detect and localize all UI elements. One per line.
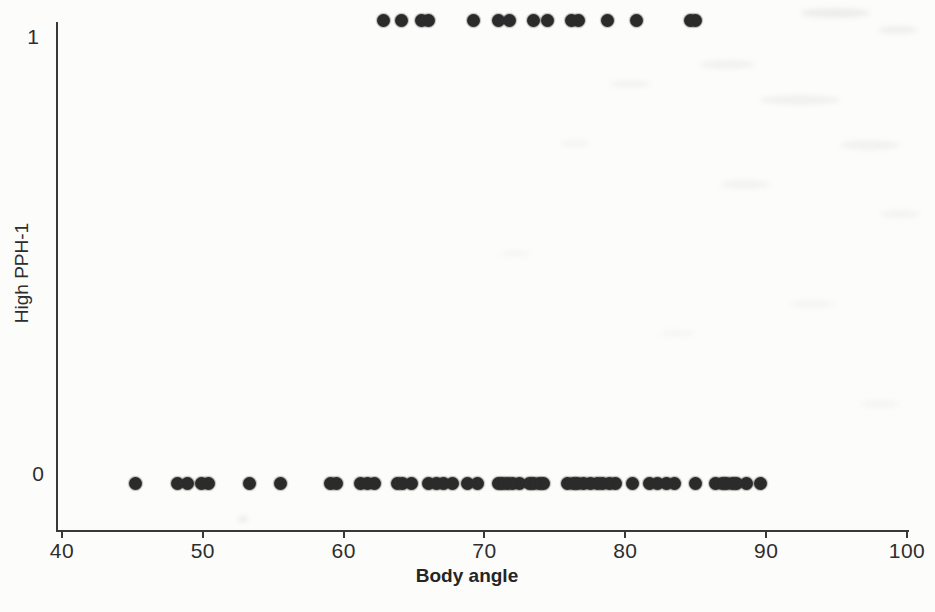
data-point — [668, 477, 681, 490]
x-tick-label: 50 — [173, 539, 233, 563]
data-point — [527, 14, 540, 27]
data-point — [377, 14, 390, 27]
scan-noise-speck — [610, 80, 650, 88]
scan-noise-speck — [720, 180, 770, 189]
x-tick-mark — [624, 531, 626, 538]
data-point — [368, 477, 381, 490]
y-tick-label-0: 0 — [23, 462, 53, 486]
scan-noise-speck — [790, 300, 835, 308]
scan-noise-speck — [700, 60, 755, 69]
data-point — [609, 477, 622, 490]
data-point — [471, 477, 484, 490]
data-point — [446, 477, 459, 490]
scatter-plot-figure: 1 0 High PPH-1 405060708090100 Body angl… — [0, 0, 935, 612]
data-point — [202, 477, 215, 490]
data-point — [754, 477, 767, 490]
data-point — [503, 14, 516, 27]
data-point — [689, 477, 702, 490]
data-point — [330, 477, 343, 490]
scan-noise-speck — [860, 400, 900, 408]
x-tick-label: 80 — [595, 539, 655, 563]
data-point — [541, 14, 554, 27]
x-tick-mark — [202, 531, 204, 538]
data-point — [395, 14, 408, 27]
x-tick-mark — [343, 531, 345, 538]
x-tick-mark — [906, 531, 908, 538]
scan-noise-speck — [500, 250, 530, 257]
data-point — [181, 477, 194, 490]
data-point — [405, 477, 418, 490]
data-point — [630, 14, 643, 27]
data-point — [537, 477, 550, 490]
data-point — [689, 14, 702, 27]
x-tick-label: 40 — [32, 539, 92, 563]
x-tick-label: 100 — [877, 539, 935, 563]
x-tick-label: 90 — [736, 539, 796, 563]
scan-noise-speck — [238, 516, 248, 522]
data-point — [422, 14, 435, 27]
scan-noise-speck — [800, 8, 870, 18]
scan-noise-speck — [878, 26, 918, 34]
scan-noise-speck — [840, 140, 900, 150]
y-axis-line — [56, 22, 58, 532]
scan-noise-speck — [660, 330, 695, 337]
data-point — [572, 14, 585, 27]
x-tick-mark — [61, 531, 63, 538]
x-tick-mark — [483, 531, 485, 538]
data-point — [740, 477, 753, 490]
y-tick-label-1: 1 — [18, 25, 48, 49]
data-point — [626, 477, 639, 490]
data-point — [129, 477, 142, 490]
scan-noise-speck — [560, 140, 590, 147]
data-point — [274, 477, 287, 490]
y-axis-title: High PPH-1 — [11, 173, 33, 373]
x-tick-label: 70 — [454, 539, 514, 563]
x-tick-mark — [765, 531, 767, 538]
x-axis-title: Body angle — [367, 565, 567, 587]
scan-noise-speck — [760, 95, 840, 105]
data-point — [243, 477, 256, 490]
data-point — [467, 14, 480, 27]
data-point — [601, 14, 614, 27]
scan-noise-speck — [880, 210, 920, 218]
x-tick-label: 60 — [314, 539, 374, 563]
